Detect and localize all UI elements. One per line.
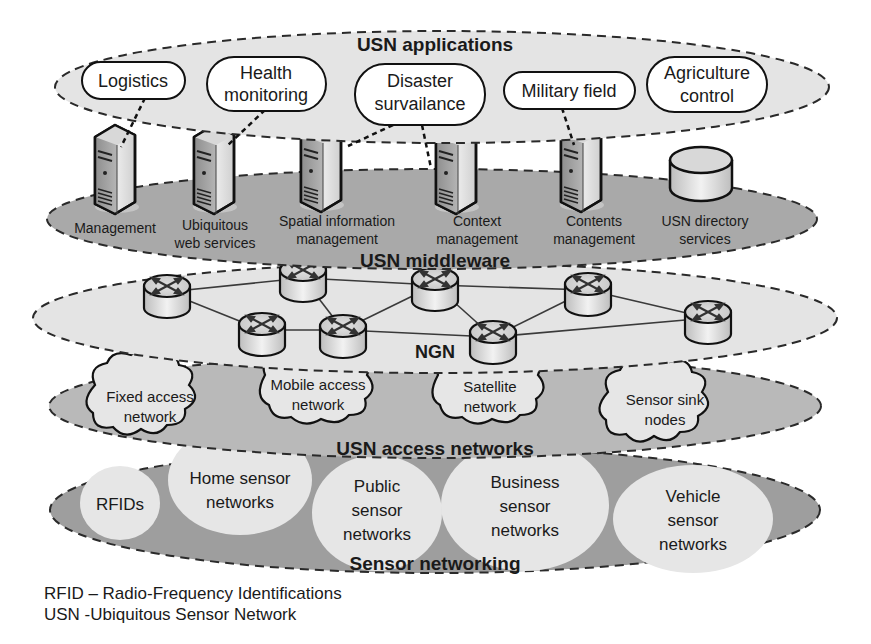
sensor-bubble-rfids: RFIDs: [80, 466, 160, 540]
sensor-label: networks: [343, 525, 411, 544]
app-label: monitoring: [224, 85, 308, 105]
middleware-label: USN directory: [661, 213, 748, 229]
sensor-label: RFIDs: [96, 495, 144, 514]
server-icon: [95, 125, 135, 214]
router-icon: [565, 273, 611, 316]
app-agriculture-control: Agriculture control: [647, 57, 767, 112]
cloud-fixed-access: Fixed access network: [86, 350, 195, 435]
sensor-label: networks: [491, 521, 559, 540]
applications-title: USN applications: [357, 34, 513, 55]
access-networks-title: USN access networks: [336, 438, 534, 459]
middleware-title: USN middleware: [360, 250, 510, 271]
sensor-label: sensor: [499, 497, 550, 516]
middleware-label: Management: [74, 220, 156, 236]
cloud-label: nodes: [645, 411, 686, 428]
middleware-label: Contents: [566, 213, 622, 229]
cloud-label: Satellite: [463, 378, 516, 395]
router-icon: [144, 275, 190, 318]
legend-usn: USN -Ubiquitous Sensor Network: [44, 604, 342, 625]
sensor-label: sensor: [351, 501, 402, 520]
middleware-label: web services: [174, 235, 256, 251]
app-label: control: [680, 86, 734, 106]
ngn-title: NGN: [415, 342, 455, 362]
sensor-label: networks: [206, 493, 274, 512]
middleware-label: management: [436, 231, 518, 247]
router-icon: [320, 315, 366, 358]
app-label: Agriculture: [664, 63, 750, 83]
ngn-layer: NGN: [33, 259, 837, 373]
router-icon: [685, 301, 731, 344]
cloud-label: network: [124, 408, 177, 425]
app-health-monitoring: Health monitoring: [207, 57, 326, 111]
sensor-label: Vehicle: [666, 487, 721, 506]
cloud-label: Fixed access: [106, 388, 194, 405]
middleware-label: Context: [453, 213, 501, 229]
middleware-label: Spatial information: [279, 213, 395, 229]
legend-rfid: RFID – Radio-Frequency Identifications: [44, 583, 342, 604]
app-disaster-survailance: Disaster survailance: [355, 64, 485, 125]
database-icon: [670, 147, 732, 201]
middleware-label: management: [296, 231, 378, 247]
sensor-label: sensor: [667, 511, 718, 530]
router-icon: [412, 268, 458, 311]
middleware-label: management: [553, 231, 635, 247]
app-label: survailance: [374, 94, 465, 114]
app-label: Health: [240, 63, 292, 83]
usn-architecture-diagram: RFIDs Home sensor networks Public sensor…: [0, 0, 871, 644]
sensor-networking-title: Sensor networking: [349, 553, 520, 574]
middleware-label: Ubiquitous: [182, 217, 248, 233]
sensor-label: networks: [659, 535, 727, 554]
app-label: Military field: [521, 81, 616, 101]
router-icon: [470, 321, 516, 364]
sensor-bubble-vehicle: Vehicle sensor networks: [613, 465, 773, 573]
sensor-label: Public: [354, 477, 401, 496]
app-label: Disaster: [387, 71, 453, 91]
cloud-label: Mobile access: [270, 376, 365, 393]
sensor-label: Home sensor: [189, 469, 290, 488]
app-label: Logistics: [98, 71, 168, 91]
legend: RFID – Radio-Frequency Identifications U…: [44, 583, 342, 625]
sensor-label: Business: [491, 473, 560, 492]
router-icon: [239, 313, 285, 356]
cloud-label: network: [292, 396, 345, 413]
cloud-label: network: [464, 398, 517, 415]
app-logistics: Logistics: [82, 62, 185, 99]
middleware-label: services: [679, 231, 730, 247]
cloud-label: Sensor sink: [626, 391, 705, 408]
middleware-layer: Management Ubiquitous web services Spati…: [47, 123, 817, 271]
server-icon: [194, 125, 234, 214]
app-military-field: Military field: [504, 72, 635, 109]
